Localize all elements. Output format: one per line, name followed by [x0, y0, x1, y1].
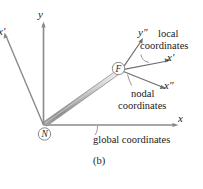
figure-panel: y x x' y″ x' x″ F N local coordinates no… [0, 0, 203, 189]
global-y-axis-label: y [38, 9, 43, 21]
local-coordinates-label-line1: local [158, 28, 178, 39]
global-z-axis [4, 33, 44, 126]
beam-element [44, 68, 124, 126]
nodal-coordinates-label-line2: coordinates [118, 100, 166, 111]
node-near-label: N [42, 129, 48, 139]
node-far-label: F [116, 64, 122, 74]
nodal-x-axis-label: x″ [164, 80, 173, 92]
leader-nodal [128, 75, 132, 86]
global-x-axis-label: x [178, 113, 183, 125]
nodal-coordinates-label-line1: nodal [131, 88, 154, 99]
local-coordinates-label-line2: coordinates [140, 40, 188, 51]
local-y-axis-label: y″ [138, 27, 147, 39]
local-x-axis-label: x' [167, 52, 174, 64]
global-coordinates-label: global coordinates [93, 134, 170, 145]
global-x-axis [44, 123, 179, 127]
offscreen-axis-label: x' [0, 26, 5, 38]
figure-caption: (b) [93, 155, 105, 166]
leader-local [141, 55, 149, 63]
global-y-axis [41, 22, 45, 126]
nodal-x-axis [122, 71, 167, 89]
